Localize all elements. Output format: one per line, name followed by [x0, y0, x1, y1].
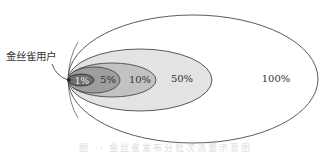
pointer-line: [52, 64, 68, 80]
label-5-percent: 5%: [100, 74, 116, 85]
label-50-percent: 50%: [171, 73, 193, 84]
label-10-percent: 10%: [129, 74, 151, 85]
canary-release-diagram: 100% 50% 10% 5% 1% 金丝雀用户: [0, 0, 331, 154]
label-100-percent: 100%: [262, 73, 291, 84]
origin-dot: [67, 78, 71, 82]
label-1-percent: 1%: [75, 76, 90, 86]
canary-users-label: 金丝雀用户: [6, 50, 56, 62]
figure-caption: 图 ·· 金丝雀发布分批次流量示意图: [0, 141, 331, 154]
ring-1: 1%: [68, 74, 94, 86]
